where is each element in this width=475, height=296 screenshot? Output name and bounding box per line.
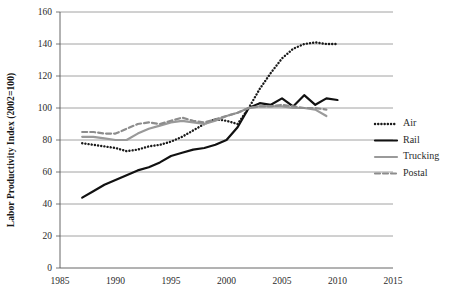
y-tick-label-0: 0 [47,263,52,273]
y-tick-label-100: 100 [38,103,53,113]
y-axis-title: Labor Productivity Index (2002=100) [6,73,17,228]
series-line-rail [82,95,337,197]
legend-label-postal: Postal [403,167,428,178]
legend-label-rail: Rail [403,134,420,145]
y-tick-label-60: 60 [43,167,53,177]
y-tick-labels-group: 020406080100120140160 [38,7,60,273]
legend-label-air: Air [403,117,417,128]
x-tick-label-1990: 1990 [106,276,125,286]
series-line-postal [82,105,326,134]
legend: AirRailTruckingPostal [375,117,439,178]
y-tick-label-20: 20 [43,231,53,241]
series-line-trucking [82,106,326,140]
x-tick-label-1995: 1995 [162,276,181,286]
x-tick-labels-group: 1985199019952000200520102015 [51,276,403,286]
series-group [82,42,337,197]
x-tick-label-1985: 1985 [51,276,70,286]
x-tick-label-2005: 2005 [273,276,292,286]
y-tick-label-80: 80 [43,135,53,145]
legend-label-trucking: Trucking [403,150,439,161]
gridlines-group [60,12,393,236]
y-tick-label-140: 140 [38,39,53,49]
x-tick-label-2015: 2015 [384,276,403,286]
y-tick-label-40: 40 [43,199,53,209]
chart-page: 020406080100120140160 198519901995200020… [0,0,475,296]
series-line-air [82,42,337,151]
x-tick-label-2010: 2010 [328,276,347,286]
y-tick-label-160: 160 [38,7,53,17]
y-tick-label-120: 120 [38,71,53,81]
line-chart: 020406080100120140160 198519901995200020… [0,0,475,296]
x-tick-label-2000: 2000 [217,276,236,286]
